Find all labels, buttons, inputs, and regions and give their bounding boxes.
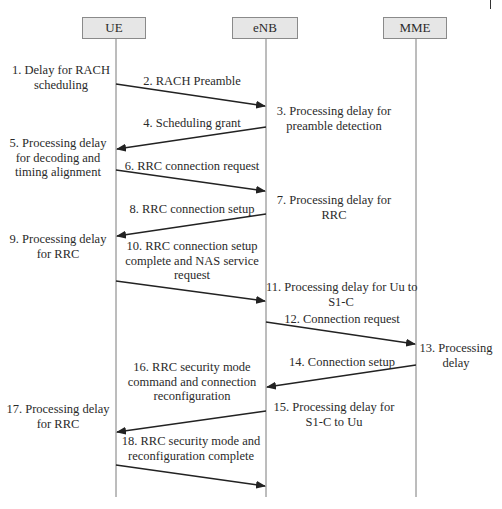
note-9: 9. Processing delay for RRC — [6, 232, 110, 261]
sequence-diagram: UE eNB MME 1. Delay for RACH scheduling … — [0, 0, 502, 509]
note-5: 5. Processing delay for decoding and tim… — [6, 136, 110, 180]
entity-ue: UE — [82, 17, 146, 39]
arrow-m16 — [117, 411, 266, 432]
note-11: 11. Processing delay for Uu to S1-C — [266, 280, 416, 309]
entity-mme: MME — [383, 17, 447, 39]
entity-enb: eNB — [232, 17, 298, 39]
note-17: 17. Processing delay for RRC — [6, 402, 110, 431]
message-label-16: 16. RRC security mode command and connec… — [120, 360, 264, 404]
message-label-6: 6. RRC connection request — [120, 159, 264, 174]
message-label-14: 14. Connection setup — [270, 355, 414, 370]
arrow-m10 — [116, 281, 265, 301]
message-label-10: 10. RRC connection setup complete and NA… — [120, 239, 264, 283]
note-13: 13. Processing delay — [416, 341, 496, 370]
arrow-m18 — [116, 465, 265, 486]
note-1: 1. Delay for RACH scheduling — [10, 63, 112, 92]
arrow-m8 — [117, 214, 266, 236]
message-label-2: 2. RACH Preamble — [130, 74, 254, 89]
message-label-4: 4. Scheduling grant — [130, 116, 254, 131]
note-15: 15. Processing delay for S1-C to Uu — [272, 400, 396, 429]
message-label-18: 18. RRC security mode and reconfiguratio… — [116, 434, 266, 463]
message-label-12: 12. Connection request — [270, 312, 414, 327]
message-label-8: 8. RRC connection setup — [120, 202, 264, 217]
note-3: 3. Processing delay for preamble detecti… — [272, 104, 396, 133]
note-7: 7. Processing delay for RRC — [272, 193, 396, 222]
